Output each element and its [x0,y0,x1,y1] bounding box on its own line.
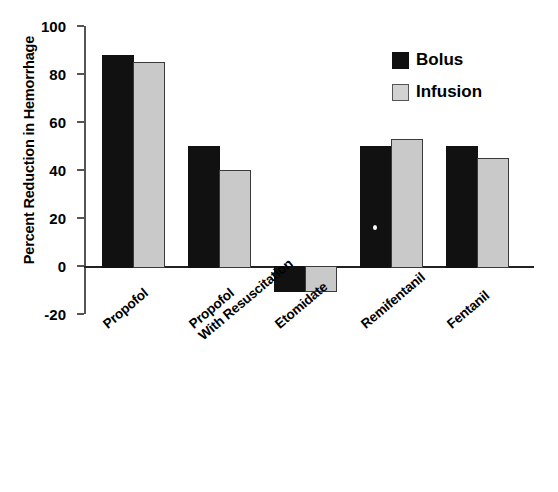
bar-infusion [219,170,251,268]
y-axis-tick-label: 80 [49,66,66,83]
bar-infusion [477,158,509,268]
bar-infusion [391,139,423,268]
chart-legend: BolusInfusion [392,50,482,114]
legend-item-bolus: Bolus [392,50,482,70]
y-axis-tick: 60 [77,121,84,123]
y-axis-tick: -20 [77,313,84,315]
y-axis-tick-label: 20 [49,210,66,227]
bar-chart-figure: Percent Reduction in Hemorrhage -2002040… [0,0,558,492]
y-axis-tick: 40 [77,169,84,171]
y-axis-tick-label: 60 [49,114,66,131]
legend-swatch-black-square [392,52,409,69]
bar-bolus [188,146,220,268]
y-axis-tick: 80 [77,73,84,75]
y-axis-tick: 0 [77,265,84,267]
legend-item-infusion: Infusion [392,82,482,102]
y-axis-tick-label: 0 [58,258,66,275]
bar-bolus [446,146,478,268]
legend-label: Infusion [416,82,482,102]
y-axis-tick-label: -20 [44,306,66,323]
y-axis-tick-label: 100 [41,18,66,35]
image-artifact-speck [373,225,377,230]
legend-swatch-light-gray-square [392,84,409,101]
bar-group [98,26,168,314]
legend-label: Bolus [416,50,463,70]
bar-bolus [102,55,134,268]
y-axis-title: Percent Reduction in Hemorrhage [21,15,41,285]
y-axis-tick: 100 [77,25,84,27]
y-axis-tick-label: 40 [49,162,66,179]
bar-bolus [360,146,392,268]
y-axis-tick: 20 [77,217,84,219]
bar-infusion [133,62,165,268]
